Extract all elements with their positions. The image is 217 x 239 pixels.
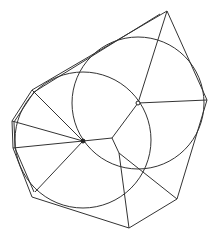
edge-line <box>138 100 207 103</box>
edge-line <box>35 141 83 192</box>
edge-line <box>13 141 83 148</box>
circles-layer <box>15 37 204 208</box>
diagram-canvas <box>0 0 217 239</box>
edge-line <box>119 153 129 228</box>
edge-line <box>112 138 119 153</box>
geometric-diagram <box>0 0 217 239</box>
large-circle-center-point <box>136 101 140 105</box>
points-layer <box>81 101 140 143</box>
small-circle-center-point <box>81 139 85 143</box>
edge-line <box>112 103 138 138</box>
edge-line <box>83 138 112 141</box>
